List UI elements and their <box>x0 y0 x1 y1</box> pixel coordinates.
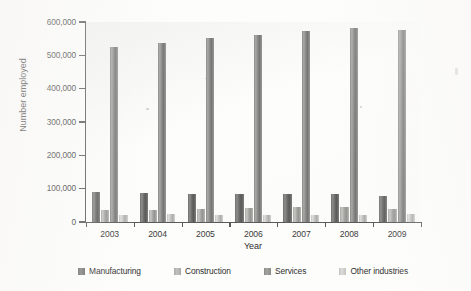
x-axis-tick-mark <box>373 222 374 227</box>
legend-swatch-icon <box>174 268 181 275</box>
bar-other-industries-2005 <box>215 215 223 222</box>
legend-item-services[interactable]: Services <box>264 266 306 276</box>
legend-label: Services <box>275 266 306 276</box>
legend-item-other-industries[interactable]: Other industries <box>339 266 408 276</box>
bar-services-2003 <box>110 47 118 222</box>
bar-manufacturing-2006 <box>235 194 243 222</box>
y-axis-tick-mark <box>79 88 85 89</box>
bar-services-2004 <box>158 43 166 222</box>
y-axis-tick-mark <box>79 155 85 156</box>
y-axis-line <box>85 21 86 223</box>
x-axis-tick-mark <box>277 222 278 227</box>
bar-services-2007 <box>302 31 310 222</box>
legend-swatch-icon <box>264 268 271 275</box>
bar-services-2009 <box>398 30 406 222</box>
x-axis-tick-label: 2007 <box>278 229 324 239</box>
legend-label: Manufacturing <box>89 266 141 276</box>
bar-services-2005 <box>206 38 214 222</box>
bar-construction-2006 <box>245 208 253 222</box>
x-axis-tick-mark <box>182 222 183 227</box>
y-axis-tick-label: 500,000 <box>22 50 76 60</box>
bar-manufacturing-2004 <box>140 193 148 222</box>
x-axis-tick-mark <box>325 222 326 227</box>
x-axis-tick-label: 2006 <box>230 229 276 239</box>
bar-construction-2003 <box>101 210 109 222</box>
bar-construction-2005 <box>197 209 205 222</box>
y-axis-tick-label: 200,000 <box>22 150 76 160</box>
bar-manufacturing-2005 <box>188 194 196 222</box>
x-axis-tick-mark <box>421 222 422 227</box>
bar-other-industries-2006 <box>263 215 271 222</box>
legend-swatch-icon <box>78 268 85 275</box>
y-axis-tick-label: 300,000 <box>22 117 76 127</box>
legend-swatch-icon <box>339 268 346 275</box>
x-axis-line <box>85 222 421 223</box>
x-axis-tick-mark <box>134 222 135 227</box>
chart-legend: ManufacturingConstructionServicesOther i… <box>78 266 408 276</box>
bar-manufacturing-2009 <box>379 196 387 222</box>
bar-services-2006 <box>254 35 262 222</box>
legend-label: Other industries <box>350 266 408 276</box>
bar-chart-figure: 0100,000200,000300,000400,000500,000600,… <box>0 0 471 291</box>
y-axis-tick-label: 100,000 <box>22 183 76 193</box>
bar-other-industries-2003 <box>119 215 127 222</box>
legend-item-manufacturing[interactable]: Manufacturing <box>78 266 141 276</box>
legend-item-construction[interactable]: Construction <box>174 266 231 276</box>
legend-label: Construction <box>185 266 231 276</box>
bar-other-industries-2009 <box>407 214 415 222</box>
x-axis-tick-mark <box>86 222 87 227</box>
x-axis-tick-label: 2009 <box>374 229 420 239</box>
x-axis-tick-label: 2004 <box>135 229 181 239</box>
bar-construction-2008 <box>340 207 348 222</box>
y-axis-tick-label: 400,000 <box>22 83 76 93</box>
y-axis-tick-label: 600,000 <box>22 17 76 27</box>
bar-other-industries-2007 <box>311 215 319 222</box>
y-axis-tick-label: 0 <box>22 217 76 227</box>
x-axis-tick-label: 2005 <box>182 229 228 239</box>
bar-construction-2009 <box>388 209 396 222</box>
bar-manufacturing-2008 <box>331 194 339 222</box>
bar-manufacturing-2007 <box>283 194 291 222</box>
y-axis-tick-mark <box>79 121 85 122</box>
y-axis-tick-mark <box>79 21 85 22</box>
y-axis-tick-mark <box>79 188 85 189</box>
bar-other-industries-2008 <box>359 215 367 222</box>
x-axis-title: Year <box>85 241 421 251</box>
y-axis-title: Number employed <box>18 30 28 160</box>
bar-manufacturing-2003 <box>92 192 100 222</box>
y-axis-tick-mark <box>79 55 85 56</box>
x-axis-tick-label: 2008 <box>326 229 372 239</box>
bar-construction-2004 <box>149 210 157 222</box>
bar-other-industries-2004 <box>167 214 175 222</box>
x-axis-tick-mark <box>229 222 230 227</box>
bar-construction-2007 <box>293 207 301 222</box>
bar-services-2008 <box>350 28 358 222</box>
y-axis-tick-mark <box>79 221 85 222</box>
x-axis-tick-label: 2003 <box>87 229 133 239</box>
